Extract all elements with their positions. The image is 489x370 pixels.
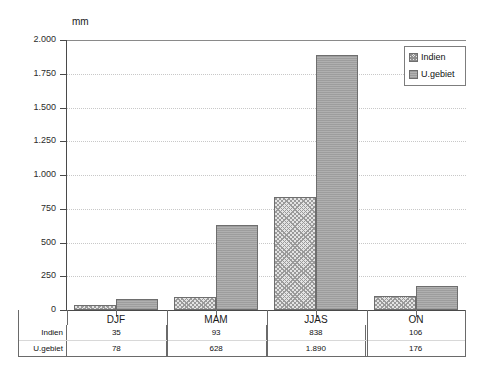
table-cell: 176	[365, 341, 465, 356]
bar-ugebiet-mam	[216, 225, 258, 310]
table-column-divider	[267, 325, 268, 356]
y-axis-tick-label: 1.750	[0, 69, 56, 78]
bar-ugebiet-djf	[116, 299, 158, 310]
y-axis-tick-label: 1.250	[0, 136, 56, 145]
category-header-divider	[67, 310, 68, 325]
legend-label-indien: Indien	[421, 53, 446, 62]
table-cell: 93	[166, 325, 266, 340]
table-row: U.gebiet 78 628 1.890 176	[19, 340, 465, 356]
table-cell: 35	[67, 325, 166, 340]
y-axis-tick-label: 1.000	[0, 170, 56, 179]
bar-ugebiet-on	[416, 286, 458, 310]
table-cell: 1.890	[266, 341, 366, 356]
data-table: Indien 35 93 838 106 U.gebiet 78 628 1.8…	[18, 325, 466, 357]
table-column-divider	[367, 325, 368, 356]
table-row-header: Indien	[19, 325, 67, 340]
bar-indien-jjas	[274, 197, 316, 310]
bar-indien-on	[374, 296, 416, 310]
legend-label-ugebiet: U.gebiet	[421, 70, 455, 79]
table-cell: 838	[266, 325, 366, 340]
table-cell: 628	[166, 341, 266, 356]
table-column-divider	[167, 325, 168, 356]
y-axis-tick-label: 500	[0, 238, 56, 247]
legend-swatch-ugebiet-icon	[409, 70, 418, 79]
category-label-frame	[18, 310, 466, 325]
category-column-divider	[367, 310, 368, 325]
table-row: Indien 35 93 838 106	[19, 325, 465, 340]
legend-item-indien[interactable]: Indien	[409, 51, 461, 64]
y-axis-unit-label: mm	[72, 16, 89, 27]
category-column-divider	[267, 310, 268, 325]
y-axis-tick-label: 1.500	[0, 103, 56, 112]
y-axis-tick-label: 750	[0, 204, 56, 213]
category-column-divider	[167, 310, 168, 325]
y-axis-tick-label: 2.000	[0, 35, 56, 44]
bar-chart: mm 02505007501.0001.2501.5001.7502.000 D…	[0, 0, 489, 370]
legend-item-ugebiet[interactable]: U.gebiet	[409, 68, 461, 81]
table-cell: 78	[67, 341, 166, 356]
bar-ugebiet-jjas	[316, 55, 358, 310]
y-axis-tick-label: 250	[0, 271, 56, 280]
legend: Indien U.gebiet	[404, 46, 466, 86]
legend-swatch-indien-icon	[409, 53, 418, 62]
table-cell: 106	[365, 325, 465, 340]
bar-indien-mam	[174, 297, 216, 310]
table-row-header: U.gebiet	[19, 341, 67, 356]
